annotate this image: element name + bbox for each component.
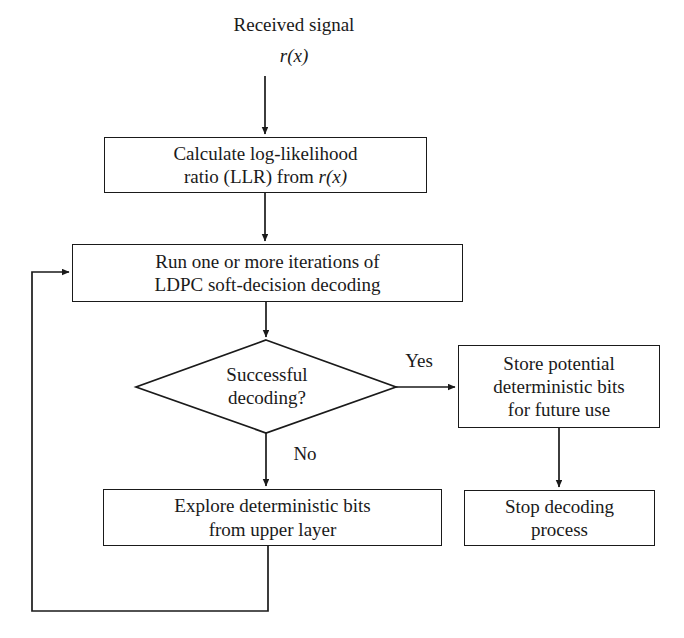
process-calculate-llr-line2-text: ratio (LLR) from	[184, 166, 319, 187]
edge-label-no: No	[285, 443, 325, 465]
feedback-loop-arrow	[32, 272, 268, 611]
process-stop-line2: process	[531, 518, 588, 541]
received-signal-math-label: r(x)	[204, 45, 384, 67]
process-calculate-llr-line2-math: r(x)	[319, 166, 347, 187]
process-run-iterations: Run one or more iterations of LDPC soft-…	[72, 244, 463, 302]
decision-line1: Successful	[167, 363, 367, 386]
process-store-line2: deterministic bits	[493, 375, 624, 398]
process-stop-decoding: Stop decoding process	[464, 490, 655, 546]
process-run-iterations-line1: Run one or more iterations of	[155, 250, 379, 273]
decision-line2: decoding?	[167, 386, 367, 409]
process-calculate-llr-line2: ratio (LLR) from r(x)	[184, 165, 347, 188]
process-explore-deterministic-bits: Explore deterministic bits from upper la…	[103, 489, 442, 546]
process-store-deterministic-bits: Store potential deterministic bits for f…	[458, 345, 660, 428]
decision-successful-decoding: Successful decoding?	[167, 363, 367, 409]
process-run-iterations-line2: LDPC soft-decision decoding	[155, 273, 381, 296]
process-explore-line1: Explore deterministic bits	[174, 494, 370, 517]
process-stop-line1: Stop decoding	[505, 495, 614, 518]
process-calculate-llr: Calculate log-likelihood ratio (LLR) fro…	[104, 137, 427, 193]
edge-label-yes: Yes	[395, 350, 443, 372]
process-store-line1: Store potential	[503, 352, 614, 375]
process-explore-line2: from upper layer	[209, 518, 337, 541]
process-store-line3: for future use	[508, 398, 610, 421]
received-signal-label: Received signal	[204, 14, 384, 36]
process-calculate-llr-line1: Calculate log-likelihood	[173, 142, 357, 165]
